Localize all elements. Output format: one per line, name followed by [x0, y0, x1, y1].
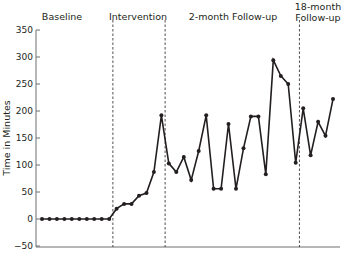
data-point: [145, 191, 149, 195]
data-point: [159, 113, 163, 117]
y-tick-label: 200: [16, 106, 33, 116]
data-point: [100, 217, 104, 221]
y-axis: 350300250200150100500−50: [14, 25, 40, 251]
data-point: [137, 194, 141, 198]
phase-dividers: [113, 20, 300, 247]
data-point: [92, 217, 96, 221]
data-point: [316, 120, 320, 124]
data-point: [264, 172, 268, 176]
data-point: [309, 153, 313, 157]
phase-label: Follow-up: [295, 12, 340, 23]
data-point: [115, 207, 119, 211]
data-point: [212, 187, 216, 191]
series-time-in-minutes: [40, 58, 335, 221]
chart: 350300250200150100500−50 BaselineInterve…: [0, 0, 350, 257]
data-point: [197, 149, 201, 153]
data-point: [279, 74, 283, 78]
data-point: [85, 217, 89, 221]
data-point: [122, 202, 126, 206]
data-point: [40, 217, 44, 221]
y-tick-label: −50: [14, 241, 33, 251]
data-point: [174, 170, 178, 174]
data-point: [331, 97, 335, 101]
data-point: [70, 217, 74, 221]
data-point: [301, 106, 305, 110]
y-tick-label: 150: [16, 133, 33, 143]
data-point: [182, 155, 186, 159]
data-point: [324, 134, 328, 138]
data-point: [249, 114, 253, 118]
data-point: [256, 114, 260, 118]
phase-label: 2-month Follow-up: [189, 11, 278, 22]
data-point: [271, 58, 275, 62]
data-point: [286, 82, 290, 86]
data-point: [107, 217, 111, 221]
data-point: [242, 146, 246, 150]
y-tick-label: 300: [16, 52, 33, 62]
data-point: [77, 217, 81, 221]
y-tick-label: 350: [16, 25, 33, 35]
y-axis-title: Time in Minutes: [1, 100, 12, 176]
data-point: [167, 161, 171, 165]
y-tick-label: 250: [16, 79, 33, 89]
data-point: [227, 122, 231, 126]
data-point: [294, 161, 298, 165]
data-point: [234, 187, 238, 191]
y-tick-label: 50: [22, 187, 34, 197]
phase-label: 18-month: [295, 1, 341, 12]
data-point: [55, 217, 59, 221]
data-point: [204, 113, 208, 117]
y-tick-label: 100: [16, 160, 33, 170]
phase-labels: BaselineIntervention2-month Follow-up18-…: [42, 1, 341, 23]
data-point: [48, 217, 52, 221]
data-point: [62, 217, 66, 221]
data-point: [130, 202, 134, 206]
phase-label: Intervention: [109, 11, 167, 22]
data-point: [152, 170, 156, 174]
y-tick-label: 0: [27, 214, 33, 224]
data-point: [189, 178, 193, 182]
data-point: [219, 187, 223, 191]
phase-label: Baseline: [42, 11, 82, 22]
